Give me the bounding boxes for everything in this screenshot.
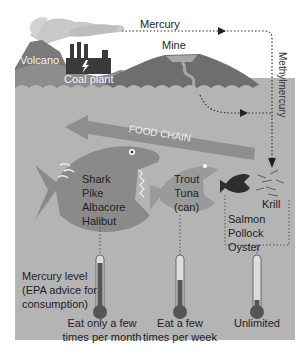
advice-line: Eat only a few xyxy=(62,316,142,330)
species-label: Pike xyxy=(82,186,125,200)
species-label: Trout xyxy=(174,172,199,186)
legend-line: Mercury level xyxy=(22,269,97,283)
species-label: Shark xyxy=(82,172,125,186)
legend-line: (EPA advice for xyxy=(22,283,97,297)
species-label: Pollock xyxy=(228,226,265,240)
legend-line: consumption) xyxy=(22,297,97,311)
species-label: Albacore xyxy=(82,200,125,214)
advice-line: times per week xyxy=(140,330,220,344)
mercury-label: Mercury xyxy=(140,18,180,31)
smoke-cloud xyxy=(30,17,125,45)
medium-fish-species: Trout Tuna (can) xyxy=(174,172,199,214)
advice-line: Eat a few xyxy=(140,316,220,330)
species-label: Salmon xyxy=(228,212,265,226)
species-label: Tuna xyxy=(174,186,199,200)
advice-medium: Eat a few times per week xyxy=(140,316,220,344)
mercury-food-chain-diagram: Volcano Coal plant Mine Mercury Methylme… xyxy=(0,0,308,354)
species-label: Oyster xyxy=(228,240,265,254)
krill-label: Krill xyxy=(262,198,280,211)
mine-label: Mine xyxy=(162,39,186,52)
small-fish-species: Salmon Pollock Oyster xyxy=(228,212,265,254)
advice-low: Unlimited xyxy=(222,316,292,330)
mercury-level-legend: Mercury level (EPA advice for consumptio… xyxy=(22,269,97,311)
species-label: (can) xyxy=(174,200,199,214)
big-fish-species: Shark Pike Albacore Halibut xyxy=(82,172,125,228)
volcano-label: Volcano xyxy=(20,54,59,67)
coal-plant-label: Coal plant xyxy=(64,73,114,86)
coal-plant-factory xyxy=(66,42,111,74)
advice-line: times per month xyxy=(62,330,142,344)
species-label: Halibut xyxy=(82,214,125,228)
advice-line: Unlimited xyxy=(222,316,292,330)
advice-high: Eat only a few times per month xyxy=(62,316,142,344)
arrow-right-icon xyxy=(218,27,226,35)
methylmercury-label: Methylmercury xyxy=(277,52,288,118)
